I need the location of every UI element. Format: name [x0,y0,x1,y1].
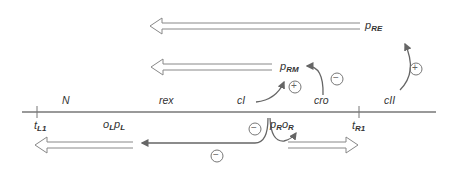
promoter-oLpL: oLpL [103,119,125,130]
gene-cro: cro [314,95,329,106]
pRM-transcript-arrow [151,59,272,75]
pRE-transcript-arrow [150,18,360,34]
pL-transcript-arrow [35,137,133,153]
tR1-sub: R1 [355,124,365,133]
pRE-sub: RE [371,24,382,33]
sign-cI-pRM: + [291,81,297,91]
tL1-sub: L1 [37,124,46,133]
sign-cI-pR: − [251,123,257,133]
pR-sub: R [276,123,282,132]
pRM-sub: RM [286,65,298,74]
terminator-tL1: tL1 [34,120,46,131]
sign-cII-pRE: + [412,63,418,73]
gene-rex: rex [159,95,174,106]
pR-transcript-arrow [288,137,358,153]
cro-repress-pRM-arrow [307,66,323,95]
gene-cII: cII [384,95,395,106]
gene-cI: cI [237,95,245,106]
promoter-pRE: pRE [365,20,382,31]
terminator-tR1: tR1 [352,120,365,131]
sign-cI-pL: − [213,150,219,160]
gene-N: N [62,95,70,106]
lambda-regulation-diagram [0,0,452,169]
oL-sub: L [109,123,114,132]
cII-activate-pRE-arrow [400,44,410,90]
pL-sub: L [120,123,125,132]
oR-sub: R [288,123,294,132]
sign-cro-pRM: − [333,73,339,83]
promoter-pRM: pRM [280,61,299,72]
promoter-pRoR: pRoR [270,119,294,130]
cI-activate-pRM-arrow [256,82,284,102]
